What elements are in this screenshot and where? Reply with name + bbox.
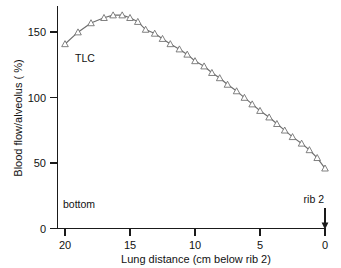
x-tick-label-20: 20 bbox=[59, 239, 71, 251]
tlc-label: TLC bbox=[75, 52, 95, 64]
x-axis-title: Lung distance (cm below rib 2) bbox=[121, 253, 271, 265]
bottom-label: bottom bbox=[63, 198, 95, 210]
x-tick-label-10: 10 bbox=[189, 239, 201, 251]
chart-figure: 0 50 100 150 20 15 10 5 0 Lung distance … bbox=[0, 0, 341, 268]
y-tick-label-0: 0 bbox=[40, 223, 46, 235]
y-axis-title: Blood flow/alveolus ( %) bbox=[12, 59, 24, 176]
chart-canvas: 0 50 100 150 20 15 10 5 0 Lung distance … bbox=[0, 0, 341, 268]
x-tick-label-5: 5 bbox=[257, 239, 263, 251]
rib2-label: rib 2 bbox=[304, 193, 325, 205]
x-tick-label-15: 15 bbox=[124, 239, 136, 251]
y-tick-label-100: 100 bbox=[28, 92, 46, 104]
y-tick-label-50: 50 bbox=[34, 157, 46, 169]
y-tick-label-150: 150 bbox=[28, 26, 46, 38]
x-tick-label-0: 0 bbox=[322, 239, 328, 251]
